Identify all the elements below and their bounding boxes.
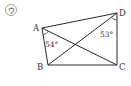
vertex-label-b: B [37,62,43,72]
diagonal-bd [48,13,117,65]
quadrilateral-diagram: ウ A B C D 54° 53° [0,0,131,86]
angle-arc-d [111,17,117,20]
angle-label-d: 53° [100,30,114,39]
angle-label-a: 54° [45,40,59,49]
angle-arc-a [43,31,48,35]
vertex-label-d: D [119,8,126,18]
vertex-label-c: C [119,62,126,72]
figure-label: ウ [8,7,15,15]
side-ad [42,13,117,28]
vertex-label-a: A [32,23,40,33]
